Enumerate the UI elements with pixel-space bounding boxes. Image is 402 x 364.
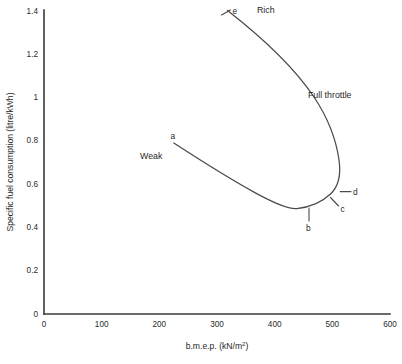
x-axis-title-tail: ): [245, 341, 248, 351]
y-tick-label: 0: [33, 310, 38, 319]
x-tick-label: 500: [325, 320, 339, 329]
y-tick-label: 0.4: [27, 223, 39, 232]
x-tick-label: 300: [210, 320, 224, 329]
x-tick-label: 600: [383, 320, 397, 329]
point-label-d: d: [353, 187, 358, 197]
x-axis-title: b.m.e.p. (kN/m2): [186, 341, 249, 351]
x-tick-label: 100: [95, 320, 109, 329]
point-label-e: e: [233, 6, 238, 16]
point-e-pointer: [222, 10, 231, 15]
point-label-c: c: [341, 204, 345, 214]
x-tick-label: 0: [42, 320, 47, 329]
chart-container: 1.4 1.2 1 0.8 0.6 0.4 0.2 0 0 100 200 30…: [0, 0, 402, 364]
y-tick-label: 0.2: [27, 266, 39, 275]
y-tick-label: 0.8: [27, 136, 39, 145]
y-axis-title: Specific fuel consumption (litre/kWh): [5, 92, 15, 231]
x-tick-label: 400: [268, 320, 282, 329]
point-label-a: a: [171, 131, 176, 141]
x-tick-label: 200: [152, 320, 166, 329]
point-c-pointer: [331, 198, 339, 207]
y-tick-label: 1.2: [27, 50, 39, 59]
point-label-b: b: [306, 223, 311, 233]
annotation-weak: Weak: [140, 151, 163, 161]
y-tick-label: 1.4: [27, 7, 39, 16]
annotation-rich: Rich: [257, 5, 275, 15]
consumption-loop-curve: [174, 10, 340, 208]
annotation-full-throttle: Full throttle: [308, 90, 352, 100]
consumption-loop-chart: 1.4 1.2 1 0.8 0.6 0.4 0.2 0 0 100 200 30…: [0, 0, 402, 364]
x-axis-title-base: b.m.e.p. (kN/m: [186, 341, 242, 351]
y-tick-label: 0.6: [27, 180, 39, 189]
y-tick-label: 1: [33, 93, 38, 102]
